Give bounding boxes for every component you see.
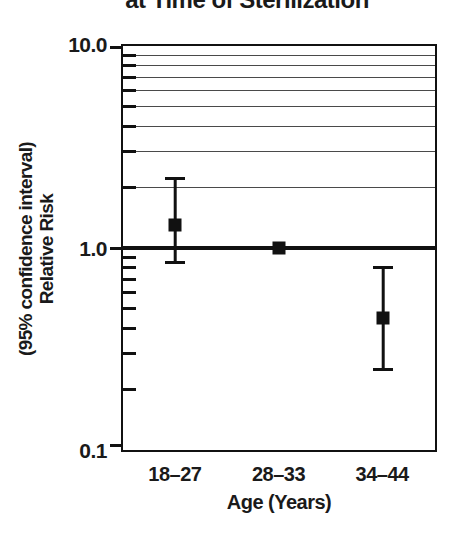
y-minor-tick bbox=[123, 278, 136, 281]
y-minor-tick bbox=[123, 307, 136, 310]
error-bar-cap-bottom bbox=[373, 368, 393, 371]
grid-line bbox=[123, 187, 435, 188]
grid-line bbox=[123, 65, 435, 66]
y-minor-tick bbox=[123, 125, 136, 128]
grid-line bbox=[123, 126, 435, 127]
x-tick-label-34-44: 34–44 bbox=[330, 463, 434, 486]
x-tick-label-18-27: 18–27 bbox=[123, 463, 227, 486]
figure: at Time of Sterilization (95% confidence… bbox=[0, 0, 457, 537]
y-tick-label-1: 1.0 bbox=[0, 237, 107, 260]
data-point-marker bbox=[377, 312, 390, 325]
y-minor-tick bbox=[123, 150, 136, 153]
y-minor-tick bbox=[123, 327, 136, 330]
y-tick-label-10: 10.0 bbox=[0, 33, 107, 56]
y-minor-tick bbox=[123, 266, 136, 269]
x-tick-label-28-33: 28–33 bbox=[227, 463, 331, 486]
y-minor-tick bbox=[123, 388, 136, 391]
y-minor-tick bbox=[123, 54, 136, 57]
x-tick-labels: 18–27 28–33 34–44 bbox=[123, 463, 434, 486]
data-point-marker bbox=[273, 242, 286, 255]
y-major-tick bbox=[110, 247, 121, 250]
grid-line bbox=[123, 106, 435, 107]
error-bar-cap-top bbox=[373, 266, 393, 269]
plot-area bbox=[121, 44, 437, 452]
y-minor-tick bbox=[123, 76, 136, 79]
y-minor-tick bbox=[123, 186, 136, 189]
grid-line bbox=[123, 90, 435, 91]
chart-title-clipped: at Time of Sterilization bbox=[125, 0, 369, 14]
y-minor-tick bbox=[123, 64, 136, 67]
y-minor-tick bbox=[123, 291, 136, 294]
y-minor-tick bbox=[123, 105, 136, 108]
y-tick-label-0-1: 0.1 bbox=[0, 439, 107, 462]
data-point-marker bbox=[169, 218, 182, 231]
y-minor-tick bbox=[123, 89, 136, 92]
y-major-tick bbox=[110, 46, 121, 49]
y-minor-tick bbox=[123, 352, 136, 355]
y-minor-tick bbox=[123, 256, 136, 259]
y-major-tick bbox=[110, 444, 121, 447]
grid-line bbox=[123, 55, 435, 56]
x-axis-title: Age (Years) bbox=[227, 491, 332, 514]
error-bar-cap-bottom bbox=[165, 261, 185, 264]
error-bar-cap-top bbox=[165, 177, 185, 180]
grid-line bbox=[123, 151, 435, 152]
grid-line bbox=[123, 77, 435, 78]
